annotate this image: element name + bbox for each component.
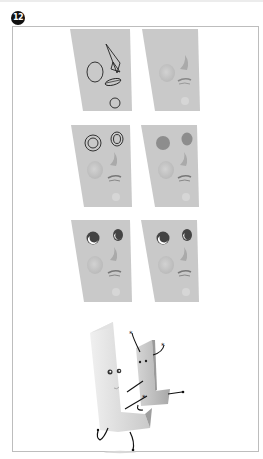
panel-eye-ring-guides (71, 125, 132, 207)
panel-eyes-with-highlights (71, 220, 132, 302)
panel-guide-shapes (70, 29, 132, 111)
svg-text:*: * (142, 394, 146, 402)
svg-text:*: * (129, 330, 133, 338)
panel-sculpted-base (142, 29, 200, 111)
panel-eyes-final (141, 220, 199, 302)
svg-text:*: * (161, 342, 165, 350)
panel-eye-sockets-shaded (141, 125, 199, 207)
final-L-characters: * * * (90, 322, 184, 453)
step-illustrations: * * * (0, 0, 263, 459)
